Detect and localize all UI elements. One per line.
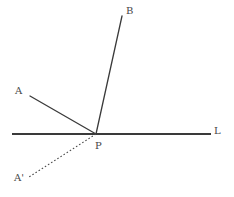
point-label-a: A (15, 86, 22, 96)
geometry-diagram: A A' B L P (0, 0, 234, 197)
ray-PAprime-segment (29, 134, 96, 177)
point-label-b: B (126, 6, 133, 16)
point-label-p: P (95, 141, 102, 151)
ray-PA-segment (30, 96, 96, 134)
point-label-a-prime: A' (14, 173, 24, 183)
ray-PB-segment (96, 16, 122, 134)
point-label-l: L (214, 126, 221, 136)
geometry-canvas (0, 0, 234, 197)
